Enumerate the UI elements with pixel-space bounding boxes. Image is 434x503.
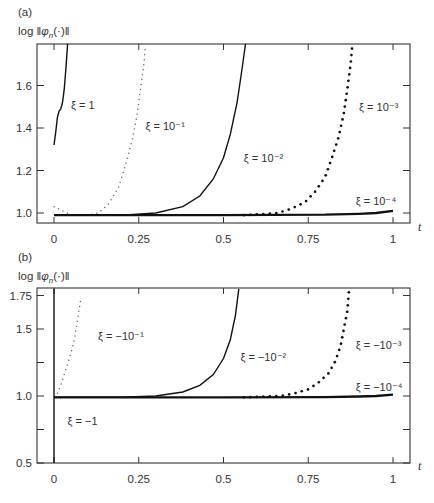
series-dot — [281, 210, 284, 213]
series-dot — [346, 310, 349, 313]
panel-b-series — [54, 289, 393, 463]
series-dot — [73, 340, 75, 342]
series-dot — [338, 349, 341, 352]
series-dot — [327, 168, 330, 171]
series-dot — [77, 316, 79, 318]
series-dot — [287, 208, 290, 211]
series-dot — [350, 54, 353, 57]
series-dot — [69, 355, 71, 357]
series-annotation: ξ = −10⁻³ — [356, 339, 402, 351]
series-dot — [115, 190, 117, 192]
series-dot — [144, 54, 146, 56]
y-tick-label: 1.6 — [16, 80, 32, 92]
x-tick-label: 0.5 — [216, 233, 232, 245]
series-dot — [134, 128, 136, 130]
series-dot — [104, 207, 106, 209]
series-dot — [140, 89, 142, 91]
panel-a-series — [53, 44, 393, 216]
series-dot — [348, 73, 351, 76]
series-line — [54, 211, 393, 215]
series-dot — [349, 67, 352, 70]
series-dot — [341, 336, 344, 339]
series-dot — [65, 369, 67, 371]
series-annotation: ξ = 10⁻³ — [359, 101, 399, 113]
series-dot — [143, 64, 145, 66]
series-dot — [53, 206, 55, 208]
series-dot — [118, 186, 120, 188]
x-tick-label: 0.75 — [297, 233, 319, 245]
series-dot — [62, 210, 64, 212]
x-tick-label: 1 — [390, 473, 396, 485]
series-dot — [293, 206, 296, 209]
series-dot — [124, 167, 126, 169]
series-line — [54, 44, 68, 145]
series-dot — [329, 162, 332, 165]
series-line — [54, 289, 239, 398]
series-dot — [59, 388, 61, 390]
series-dot — [142, 74, 144, 76]
series-dot — [130, 143, 132, 145]
series-dot — [135, 123, 137, 125]
series-dot — [57, 393, 59, 395]
y-tick-label: 1.4 — [16, 122, 33, 134]
series-dot — [343, 105, 346, 108]
series-line — [54, 395, 393, 398]
series-dot — [347, 80, 350, 83]
series-dot — [324, 174, 327, 177]
series-dot — [137, 109, 139, 111]
series-dot — [141, 79, 143, 81]
series-dot — [327, 372, 330, 375]
series-dot — [136, 118, 138, 120]
series-dot — [58, 208, 60, 210]
series-dot — [100, 210, 102, 212]
series-dot — [305, 200, 308, 203]
series-dot — [346, 86, 349, 89]
series-dot — [322, 376, 325, 379]
panel-b: (b) log ‖φn(·)‖ 00.250.50.7510.51.01.51.… — [10, 251, 422, 485]
series-dot — [60, 383, 62, 385]
series-dot — [343, 112, 346, 115]
series-dot — [335, 143, 338, 146]
series-dot — [341, 118, 344, 121]
y-tick-label: 1.0 — [16, 207, 32, 219]
series-dot — [129, 148, 131, 150]
panel-a: (a) log ‖φn(·)‖ 00.250.50.7511.01.21.41.… — [16, 6, 422, 245]
series-dot — [128, 153, 130, 155]
y-tick-label: 0.5 — [16, 457, 32, 469]
panel-a-xlabel: t — [418, 220, 422, 234]
series-dot — [346, 304, 349, 307]
series-dot — [127, 157, 128, 159]
series-dot — [136, 114, 138, 116]
series-dot — [312, 385, 315, 388]
series-dot — [330, 366, 333, 369]
series-annotation: ξ = 10⁻¹ — [146, 120, 186, 132]
series-dot — [138, 104, 140, 106]
series-dot — [72, 345, 74, 347]
series-dot — [138, 99, 140, 101]
series-dot — [62, 379, 64, 381]
panel-b-annotations: ξ = −1ξ = −10⁻¹ξ = −10⁻²ξ = −10⁻³ξ = −10… — [68, 330, 403, 428]
series-dot — [345, 317, 348, 320]
series-dot — [121, 177, 123, 179]
series-dot — [113, 195, 115, 197]
y-tick-label: 1.2 — [16, 165, 32, 177]
series-dot — [340, 124, 343, 127]
x-tick-label: 0.5 — [216, 473, 232, 485]
figure: (a) log ‖φn(·)‖ 00.250.50.7511.01.21.41.… — [0, 0, 434, 503]
series-dot — [299, 203, 302, 206]
series-dot — [340, 342, 343, 345]
series-dot — [314, 190, 317, 193]
series-dot — [119, 181, 121, 183]
series-dot — [309, 195, 312, 198]
series-annotation: ξ = 10⁻⁴ — [356, 195, 397, 207]
series-dot — [307, 388, 310, 391]
series-dot — [338, 131, 341, 134]
series-dot — [79, 306, 81, 308]
x-tick-label: 0 — [51, 473, 57, 485]
series-dot — [343, 323, 346, 326]
y-tick-label: 1.5 — [16, 323, 32, 335]
series-dot — [139, 94, 141, 96]
series-dot — [317, 381, 320, 384]
series-dot — [96, 213, 98, 215]
panel-b-xlabel: t — [418, 459, 422, 473]
